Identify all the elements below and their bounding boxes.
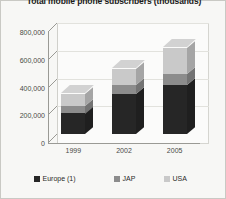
bar-segment[interactable] xyxy=(61,113,85,134)
legend-item-label: USA xyxy=(173,175,187,182)
legend-item[interactable]: USA xyxy=(164,175,187,182)
bar-column[interactable] xyxy=(112,23,136,153)
y-axis-line xyxy=(48,32,49,144)
legend-swatch xyxy=(164,176,170,182)
bar-segment[interactable] xyxy=(61,94,85,106)
legend-item-label: JAP xyxy=(123,175,136,182)
bar-column[interactable] xyxy=(163,23,187,153)
bar-segment[interactable] xyxy=(163,48,187,74)
bar-segment-face xyxy=(61,94,85,106)
y-axis-tick-label: 400,000 xyxy=(20,84,45,91)
bar-segment[interactable] xyxy=(112,85,136,94)
legend-swatch xyxy=(114,176,120,182)
x-axis-tick-label: 2005 xyxy=(167,147,183,154)
x-axis-tick-label: 2002 xyxy=(116,147,132,154)
y-axis-tick xyxy=(48,79,57,88)
legend-item[interactable]: Europe (1) xyxy=(34,175,76,182)
bar-segment-side xyxy=(187,79,195,134)
bar-segment-face xyxy=(112,94,136,134)
bar-segment[interactable] xyxy=(112,94,136,134)
legend-item[interactable]: JAP xyxy=(114,175,135,182)
y-axis-tick xyxy=(48,106,57,115)
chart-title: Total mobile phone subscribers (thousand… xyxy=(1,0,226,6)
y-axis-tick xyxy=(48,134,57,143)
y-axis-tick xyxy=(48,51,57,60)
bar-segment-face xyxy=(61,106,85,114)
x-axis-tick-label: 1999 xyxy=(66,147,82,154)
bar-segment[interactable] xyxy=(112,69,136,85)
y-axis-tick-label: 800,000 xyxy=(20,29,45,36)
plot-area: 0200,000400,000600,000800,000 1999200220… xyxy=(48,23,209,153)
y-axis-tick-label: 0 xyxy=(41,140,45,147)
chart-frame: Total mobile phone subscribers (thousand… xyxy=(0,0,226,199)
bar-segment-face xyxy=(112,69,136,85)
bar-segment-face xyxy=(163,48,187,74)
bar-segment[interactable] xyxy=(61,106,85,114)
y-axis-tick-label: 200,000 xyxy=(20,112,45,119)
y-axis-tick xyxy=(48,23,57,32)
bar-segment-face xyxy=(61,113,85,134)
legend-swatch xyxy=(34,176,40,182)
chart-legend: Europe (1)JAPUSA xyxy=(1,171,226,187)
bar-segment-side xyxy=(136,88,144,134)
bar-segment[interactable] xyxy=(163,74,187,85)
bar-segment-face xyxy=(163,85,187,134)
bar-column[interactable] xyxy=(61,23,85,153)
bar-segment-face xyxy=(112,85,136,94)
bar-segment-face xyxy=(163,74,187,85)
y-axis-tick-label: 600,000 xyxy=(20,56,45,63)
bar-segment[interactable] xyxy=(163,85,187,134)
legend-item-label: Europe (1) xyxy=(43,175,76,182)
